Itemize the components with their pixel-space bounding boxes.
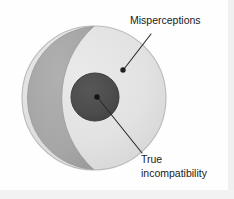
page-edge-right [228, 0, 234, 199]
figure-container: Misperceptions True incompatibility [0, 0, 234, 199]
true-incompatibility-leader-dot [94, 94, 99, 99]
diagram-svg: Misperceptions True incompatibility [0, 0, 234, 199]
page-edge-bottom [0, 190, 234, 199]
true-incompatibility-label-line2: incompatibility [141, 167, 208, 179]
true-incompatibility-label-line1: True [141, 153, 162, 165]
misperceptions-label: Misperceptions [130, 14, 201, 26]
misperceptions-leader-dot [120, 67, 125, 72]
